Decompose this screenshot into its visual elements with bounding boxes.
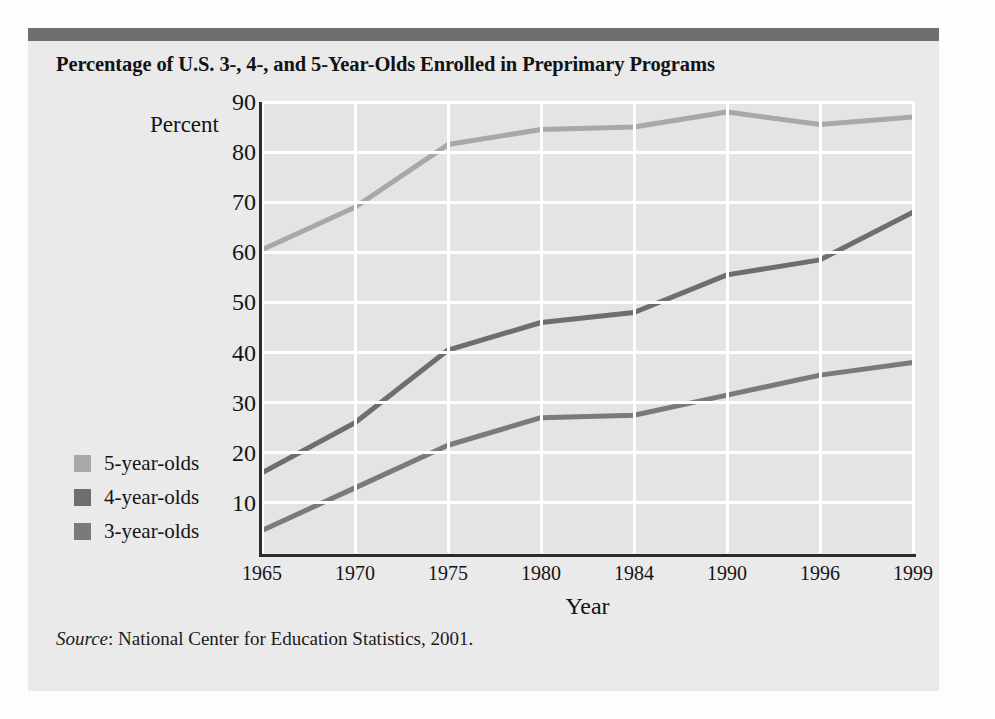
y-tick-label: 90: [196, 89, 256, 116]
legend-swatch-icon: [74, 523, 91, 540]
gridline-horizontal: [262, 501, 913, 504]
legend-item: 4-year-olds: [74, 480, 259, 514]
legend-label: 3-year-olds: [104, 519, 199, 544]
chart-legend: 5-year-olds4-year-olds3-year-olds: [74, 446, 259, 548]
x-tick-label: 1990: [707, 562, 747, 585]
gridline-vertical: [726, 102, 729, 553]
x-tick-label: 1970: [335, 562, 375, 585]
gridline-horizontal: [262, 151, 913, 154]
legend-swatch-icon: [74, 455, 91, 472]
plot-area: [262, 102, 913, 553]
gridline-vertical: [447, 102, 450, 553]
x-tick-label: 1984: [614, 562, 654, 585]
gridline-horizontal: [262, 251, 913, 254]
y-tick-label: 70: [196, 189, 256, 216]
gridline-horizontal: [262, 101, 913, 104]
gridline-vertical: [540, 102, 543, 553]
y-tick-label: 50: [196, 289, 256, 316]
legend-swatch-icon: [74, 489, 91, 506]
y-tick-label: 80: [196, 139, 256, 166]
gridline-horizontal: [262, 201, 913, 204]
gridline-vertical: [354, 102, 357, 553]
gridline-horizontal: [262, 451, 913, 454]
top-rule-decoration: [28, 28, 939, 41]
chart-title: Percentage of U.S. 3-, 4-, and 5-Year-Ol…: [56, 53, 916, 76]
gridline-vertical: [912, 102, 915, 553]
y-tick-label: 30: [196, 389, 256, 416]
x-tick-label: 1965: [242, 562, 282, 585]
x-axis-title: Year: [262, 593, 913, 620]
y-tick-label: 40: [196, 339, 256, 366]
source-label: Source: [56, 628, 108, 649]
figure-panel: Percentage of U.S. 3-, 4-, and 5-Year-Ol…: [28, 28, 939, 691]
x-tick-label: 1980: [521, 562, 561, 585]
x-tick-label: 1999: [893, 562, 933, 585]
series-line: [262, 363, 913, 531]
source-note: Source: National Center for Education St…: [56, 628, 473, 650]
x-tick-label: 1996: [800, 562, 840, 585]
x-axis-line: [259, 554, 916, 557]
legend-item: 5-year-olds: [74, 446, 259, 480]
gridline-horizontal: [262, 351, 913, 354]
y-axis-line: [259, 102, 262, 557]
legend-label: 4-year-olds: [104, 485, 199, 510]
series-lines: [262, 102, 913, 553]
legend-label: 5-year-olds: [104, 451, 199, 476]
source-text: : National Center for Education Statisti…: [108, 628, 473, 649]
gridline-horizontal: [262, 301, 913, 304]
series-line: [262, 112, 913, 250]
legend-item: 3-year-olds: [74, 514, 259, 548]
x-tick-label: 1975: [428, 562, 468, 585]
gridline-horizontal: [262, 401, 913, 404]
gridline-vertical: [633, 102, 636, 553]
y-tick-label: 60: [196, 239, 256, 266]
figure-root: Percentage of U.S. 3-, 4-, and 5-Year-Ol…: [0, 0, 995, 719]
gridline-vertical: [819, 102, 822, 553]
y-axis-tick-labels: 102030405060708090: [188, 28, 256, 691]
